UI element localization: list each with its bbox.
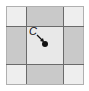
point-c	[42, 41, 48, 47]
